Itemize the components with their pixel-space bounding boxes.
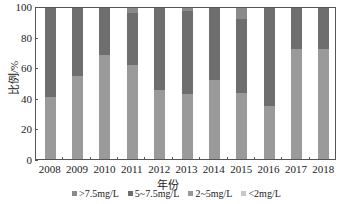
- bar-segment: [99, 55, 110, 159]
- bar-2013: [182, 8, 193, 159]
- y-axis-label: 比例/%: [5, 61, 21, 95]
- legend-swatch-icon: [128, 191, 133, 196]
- x-tick-label: 2008: [39, 163, 61, 175]
- x-tick-mark: [199, 157, 200, 160]
- x-tick-label: 2009: [66, 163, 88, 175]
- x-tick-mark: [227, 157, 228, 160]
- bar-segment: [209, 80, 220, 159]
- x-tick-label: 2012: [148, 163, 170, 175]
- bar-segment: [236, 8, 247, 19]
- legend-label: 5~7.5mg/L: [135, 188, 180, 199]
- y-tick-mark: [35, 129, 38, 130]
- x-tick-label: 2013: [176, 163, 198, 175]
- y-tick-label: 100: [16, 1, 33, 13]
- legend-item: >7.5mg/L: [72, 188, 119, 199]
- x-tick-mark: [172, 157, 173, 160]
- bar-2010: [99, 8, 110, 159]
- bar-segment: [182, 94, 193, 159]
- bar-2018: [318, 8, 329, 159]
- legend-item: <2mg/L: [241, 188, 280, 199]
- bar-2009: [72, 8, 83, 159]
- bar-2012: [154, 8, 165, 159]
- legend-item: 2~5mg/L: [188, 188, 232, 199]
- bar-segment: [236, 93, 247, 159]
- x-tick-mark: [62, 157, 63, 160]
- legend-swatch-icon: [188, 191, 193, 196]
- x-tick-label: 2017: [285, 163, 307, 175]
- y-tick-label: 60: [21, 62, 32, 74]
- bar-segment: [318, 49, 329, 159]
- bar-segment: [182, 11, 193, 94]
- x-tick-mark: [254, 157, 255, 160]
- x-tick-label: 2016: [258, 163, 280, 175]
- bar-segment: [154, 8, 165, 90]
- bar-segment: [99, 8, 110, 55]
- y-tick-label: 0: [27, 154, 33, 166]
- bar-2008: [45, 8, 56, 159]
- legend-label: >7.5mg/L: [79, 188, 119, 199]
- legend-label: <2mg/L: [248, 188, 280, 199]
- bar-segment: [154, 90, 165, 159]
- y-tick-mark: [35, 99, 38, 100]
- x-tick-mark: [117, 157, 118, 160]
- bar-2011: [127, 8, 138, 159]
- bar-segment: [45, 8, 56, 97]
- y-tick-label: 20: [21, 123, 32, 135]
- x-tick-label: 2010: [93, 163, 115, 175]
- x-tick-mark: [144, 157, 145, 160]
- bar-segment: [127, 65, 138, 159]
- x-tick-label: 2014: [203, 163, 225, 175]
- bar-segment: [209, 8, 220, 80]
- y-tick-label: 40: [21, 93, 32, 105]
- x-tick-mark: [90, 157, 91, 160]
- y-tick-mark: [35, 160, 38, 161]
- x-tick-mark: [309, 157, 310, 160]
- bar-segment: [318, 8, 329, 49]
- legend: >7.5mg/L5~7.5mg/L2~5mg/L<2mg/L: [72, 188, 281, 199]
- bar-segment: [236, 19, 247, 93]
- bar-2017: [291, 8, 302, 159]
- legend-item: 5~7.5mg/L: [128, 188, 180, 199]
- legend-swatch-icon: [241, 191, 246, 196]
- legend-label: 2~5mg/L: [195, 188, 232, 199]
- bar-segment: [264, 8, 275, 106]
- bar-2015: [236, 8, 247, 159]
- plot-area: [35, 7, 336, 160]
- y-tick-mark: [35, 7, 38, 8]
- bar-segment: [72, 8, 83, 76]
- y-tick-label: 80: [21, 32, 32, 44]
- bar-segment: [291, 8, 302, 49]
- bar-segment: [291, 49, 302, 159]
- bar-segment: [127, 13, 138, 66]
- bar-2016: [264, 8, 275, 159]
- x-tick-mark: [281, 157, 282, 160]
- bar-segment: [72, 76, 83, 159]
- bar-segment: [264, 106, 275, 159]
- y-tick-mark: [35, 38, 38, 39]
- x-tick-label: 2011: [121, 163, 143, 175]
- y-tick-mark: [35, 68, 38, 69]
- x-tick-label: 2018: [312, 163, 334, 175]
- legend-swatch-icon: [72, 191, 77, 196]
- x-tick-label: 2015: [230, 163, 252, 175]
- bar-2014: [209, 8, 220, 159]
- bar-segment: [45, 97, 56, 159]
